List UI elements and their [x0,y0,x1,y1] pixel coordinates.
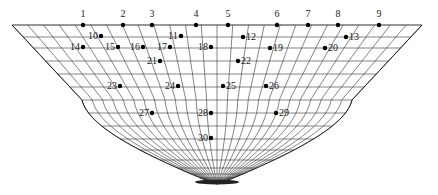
point-label-25: 25 [226,81,236,91]
point-22 [236,59,240,63]
point-label-6: 6 [275,9,280,19]
point-8 [336,23,340,27]
point-label-11: 11 [168,31,178,41]
point-18 [209,45,213,49]
point-label-3: 3 [150,9,155,19]
point-label-18: 18 [198,42,208,52]
point-2 [121,23,125,27]
point-label-13: 13 [349,32,359,42]
point-label-19: 19 [273,43,283,53]
point-13 [344,35,348,39]
point-12 [241,35,245,39]
point-7 [306,23,310,27]
point-15 [116,45,120,49]
point-label-30: 30 [198,133,208,143]
point-label-14: 14 [70,42,80,52]
point-16 [141,45,145,49]
point-29 [274,111,278,115]
point-23 [118,84,122,88]
point-label-22: 22 [241,56,251,66]
point-label-8: 8 [336,9,341,19]
point-label-2: 2 [121,9,126,19]
point-label-12: 12 [246,32,256,42]
point-label-29: 29 [279,108,289,118]
point-label-1: 1 [81,9,86,19]
point-label-10: 10 [88,31,98,41]
point-label-28: 28 [198,108,208,118]
point-17 [168,45,172,49]
point-label-23: 23 [107,81,117,91]
point-27 [150,111,154,115]
point-label-26: 26 [269,81,279,91]
point-1 [81,23,85,27]
point-label-16: 16 [130,42,140,52]
point-21 [158,59,162,63]
point-25 [221,84,225,88]
point-label-17: 17 [157,42,167,52]
point-label-27: 27 [139,108,149,118]
point-26 [264,84,268,88]
point-label-7: 7 [306,9,311,19]
point-3 [150,23,154,27]
point-5 [226,23,230,27]
point-label-20: 20 [328,43,338,53]
point-label-21: 21 [147,56,157,66]
point-9 [377,23,381,27]
point-label-24: 24 [165,81,175,91]
point-label-5: 5 [226,9,231,19]
point-label-15: 15 [105,42,115,52]
funnel-mesh-diagram [0,0,438,195]
point-14 [81,45,85,49]
point-4 [194,23,198,27]
point-11 [179,34,183,38]
point-6 [275,23,279,27]
point-19 [268,46,272,50]
point-label-4: 4 [194,9,199,19]
point-24 [176,84,180,88]
point-30 [209,136,213,140]
point-20 [323,46,327,50]
point-label-9: 9 [377,9,382,19]
point-10 [99,34,103,38]
point-28 [209,111,213,115]
